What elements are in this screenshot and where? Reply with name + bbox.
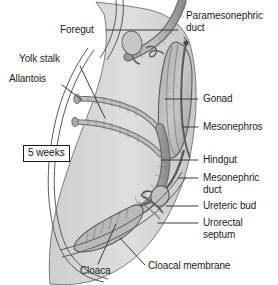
embryo-diagram-figure: Foregut Yolk stalk Allantois Paramesonep…: [0, 0, 278, 285]
label-ureteric-bud: Ureteric bud: [203, 200, 256, 212]
label-cloaca: Cloaca: [80, 265, 111, 277]
label-gonad: Gonad: [203, 93, 233, 105]
label-allantois: Allantois: [9, 73, 46, 85]
stage-badge: 5 weeks: [23, 145, 70, 162]
label-paramesonephric-duct-line1: Paramesonephric: [186, 10, 263, 22]
label-urorectal-septum-line2: septum: [203, 229, 235, 241]
label-yolk-stalk: Yolk stalk: [19, 53, 60, 65]
label-mesonephric-duct-line1: Mesonephric: [203, 172, 259, 184]
anatomy-illustration: [0, 0, 278, 285]
label-foregut: Foregut: [60, 24, 94, 36]
label-cloacal-membrane: Cloacal membrane: [148, 260, 230, 272]
label-paramesonephric-duct-line2: duct: [186, 22, 205, 34]
label-urorectal-septum-line1: Urorectal: [203, 217, 243, 229]
leader-allantois: [62, 85, 82, 100]
label-mesonephric-duct-line2: duct: [203, 184, 222, 196]
label-hindgut: Hindgut: [203, 154, 237, 166]
label-mesonephros: Mesonephros: [203, 121, 263, 133]
